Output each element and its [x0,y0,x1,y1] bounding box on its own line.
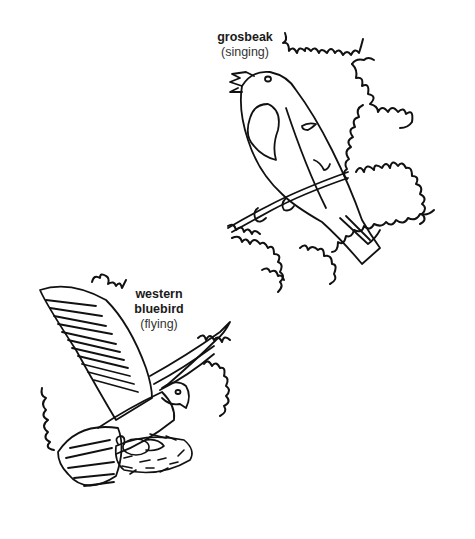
grosbeak-bird [228,72,380,264]
coloring-page-drawing [0,0,475,539]
bluebird-name-line1: western [124,287,194,302]
bluebird-nest [116,434,192,474]
grosbeak-action: (singing) [212,45,278,60]
grosbeak-label: grosbeak (singing) [212,30,278,60]
bluebird-action: (flying) [124,317,194,332]
bluebird-name-line2: bluebird [124,302,194,317]
bluebird-label: western bluebird (flying) [124,287,194,332]
grosbeak-name: grosbeak [212,30,278,45]
